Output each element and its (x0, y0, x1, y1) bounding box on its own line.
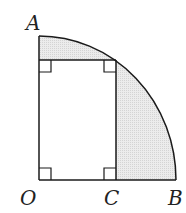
quarter-circle-diagram: A O C B (0, 0, 186, 213)
label-A: A (24, 11, 40, 35)
inner-rectangle-fill (39, 60, 116, 180)
label-C: C (104, 186, 119, 210)
label-O: O (20, 186, 36, 210)
label-B: B (167, 186, 183, 210)
